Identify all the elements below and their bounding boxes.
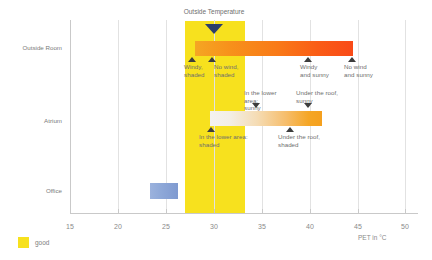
marker-label-no-wind-shaded: No wind, shaded <box>214 63 244 78</box>
marker-outside-room-no-wind-sunny-icon <box>348 57 356 62</box>
marker-atrium-lower-area-shaded-icon <box>207 127 215 132</box>
marker-label-under-roof-shaded: Under the roof, shaded <box>278 133 324 148</box>
xtick-mark-20 <box>118 209 119 213</box>
outside-temperature-label: Outside Temperature <box>166 8 262 15</box>
ytick-label-atrium: Atrium <box>0 117 62 124</box>
marker-atrium-lower-area-sunny-icon <box>252 103 260 108</box>
gridline-45 <box>358 20 359 213</box>
xtick-mark-35 <box>262 209 263 213</box>
y-axis-line <box>70 20 71 213</box>
marker-atrium-under-roof-shaded-icon <box>286 127 294 132</box>
plot-area: Outside Room Atrium Office 15 20 25 30 3… <box>0 0 432 260</box>
gridline-20 <box>118 20 119 213</box>
outside-temperature-marker-icon <box>205 24 223 34</box>
legend: good <box>18 237 49 248</box>
xtick-label-20: 20 <box>103 223 133 230</box>
xtick-label-45: 45 <box>343 223 373 230</box>
xtick-label-40: 40 <box>295 223 325 230</box>
marker-outside-room-no-wind-shaded-icon <box>208 57 216 62</box>
bar-atrium <box>210 111 322 126</box>
legend-swatch-good <box>18 237 29 248</box>
ytick-label-outside-room: Outside Room <box>0 44 62 51</box>
marker-label-windy-and-sunny: Windy and sunny <box>300 63 340 78</box>
marker-label-no-wind-and-sunny: No wind and sunny <box>344 63 388 78</box>
xtick-label-35: 35 <box>247 223 277 230</box>
marker-outside-room-windy-sunny-icon <box>304 57 312 62</box>
xtick-mark-15 <box>70 209 71 213</box>
x-axis-line <box>70 213 418 214</box>
xtick-mark-50 <box>405 209 406 213</box>
xtick-label-15: 15 <box>55 223 85 230</box>
marker-outside-room-windy-shaded-icon <box>188 57 196 62</box>
xtick-mark-45 <box>358 209 359 213</box>
xtick-label-25: 25 <box>151 223 181 230</box>
xtick-mark-30 <box>214 209 215 213</box>
ytick-label-office: Office <box>0 187 62 194</box>
marker-label-under-roof-sunny: Under the roof, sunny <box>296 89 340 104</box>
chart-container: Outside Room Atrium Office 15 20 25 30 3… <box>0 0 432 260</box>
marker-label-lower-area-shaded: In the lower area: shaded <box>199 133 249 148</box>
x-axis-title: PET in °C <box>358 234 387 241</box>
bar-outside-room <box>195 41 353 56</box>
legend-label-good: good <box>35 239 49 246</box>
xtick-label-50: 50 <box>390 223 420 230</box>
gridline-50 <box>405 20 406 213</box>
marker-label-lower-area-sunny: In the lower area: sunny <box>244 89 292 112</box>
xtick-mark-40 <box>310 209 311 213</box>
marker-label-windy-shaded: Windy, shaded <box>184 63 212 78</box>
marker-atrium-under-roof-sunny-icon <box>304 103 312 108</box>
xtick-mark-25 <box>166 209 167 213</box>
xtick-label-30: 30 <box>199 223 229 230</box>
bar-office <box>150 183 178 199</box>
